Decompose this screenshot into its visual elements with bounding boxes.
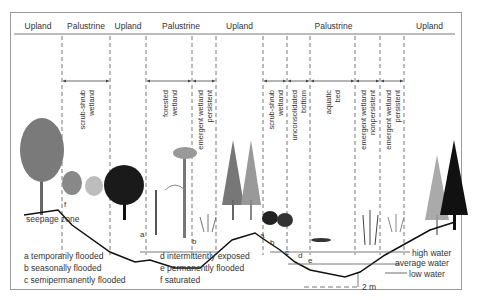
- seepage-zone-label: seepage zone: [26, 214, 80, 224]
- svg-text:aquatic: aquatic: [324, 90, 333, 114]
- svg-text:bed: bed: [333, 90, 342, 103]
- average-water-label: average water: [395, 258, 449, 268]
- legend-item: d intermittently exposed: [160, 251, 250, 261]
- svg-text:emergent wetland: emergent wetland: [196, 90, 205, 150]
- wetland-diagram: UplandPalustrineUplandPalustrineUplandPa…: [0, 0, 477, 300]
- svg-text:wetland: wetland: [87, 90, 96, 117]
- trees-icon: [20, 118, 468, 245]
- system-labels: UplandPalustrineUplandPalustrineUplandPa…: [25, 21, 444, 31]
- regime-letter: a: [260, 231, 265, 240]
- class-label: emergent wetlandpersistent: [196, 89, 214, 150]
- regime-letter: a: [140, 230, 145, 239]
- regime-letter: e: [308, 256, 313, 265]
- system-label: Upland: [416, 21, 443, 31]
- class-arrows: [63, 80, 403, 83]
- legend-item: a temporarily flooded: [24, 251, 104, 261]
- regime-letter: d: [298, 251, 302, 260]
- svg-text:emergent wetland: emergent wetland: [359, 90, 368, 150]
- system-label: Palustrine: [315, 21, 353, 31]
- legend-item: f saturated: [160, 275, 200, 285]
- svg-text:wetland: wetland: [170, 90, 179, 117]
- class-label: emergent wetlandnonpersistent: [359, 89, 377, 150]
- regime-letter: b: [192, 237, 197, 246]
- low-water-label: low water: [409, 269, 445, 279]
- depth-label: 2 m: [362, 282, 376, 292]
- svg-text:unconsolidated: unconsolidated: [290, 90, 299, 140]
- svg-text:nonpersistent: nonpersistent: [368, 89, 377, 135]
- regime-letter: c: [285, 248, 289, 257]
- legend-item: e permanently flooded: [160, 263, 244, 273]
- svg-text:forested: forested: [161, 90, 170, 117]
- legend-item: b seasonally flooded: [24, 263, 102, 273]
- svg-text:bottom: bottom: [299, 90, 308, 113]
- system-label: Upland: [25, 21, 52, 31]
- regime-letter: f: [64, 200, 67, 209]
- class-label: emergent wetlandpersistent: [384, 89, 402, 150]
- svg-text:scrub-shrub: scrub-shrub: [267, 90, 276, 130]
- svg-text:wetland: wetland: [276, 90, 285, 117]
- system-label: Upland: [115, 21, 142, 31]
- class-label: scrub-shrubwetland: [78, 90, 96, 130]
- class-label: scrub-shrubwetland: [267, 90, 285, 130]
- svg-text:persistent: persistent: [393, 89, 402, 122]
- svg-text:emergent wetland: emergent wetland: [384, 90, 393, 150]
- class-label: aquaticbed: [324, 90, 342, 114]
- legend-item: c semipermanently flooded: [24, 275, 126, 285]
- system-label: Upland: [226, 21, 253, 31]
- high-water-label: high water: [412, 248, 451, 258]
- class-label: forestedwetland: [161, 90, 179, 117]
- system-label: Palustrine: [162, 21, 200, 31]
- svg-text:scrub-shrub: scrub-shrub: [78, 90, 87, 130]
- svg-text:persistent: persistent: [205, 89, 214, 122]
- legend: a temporarily floodedb seasonally floode…: [24, 251, 250, 285]
- class-labels: scrub-shrubwetlandforestedwetlandemergen…: [78, 89, 402, 150]
- class-label: unconsolidatedbottom: [290, 90, 308, 140]
- regime-letter: b: [270, 238, 275, 247]
- system-label: Palustrine: [67, 21, 105, 31]
